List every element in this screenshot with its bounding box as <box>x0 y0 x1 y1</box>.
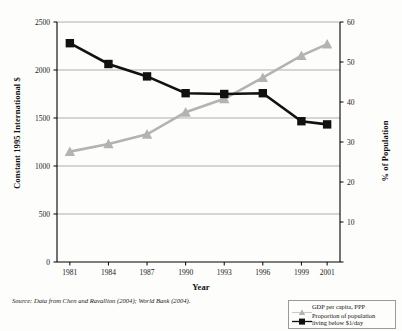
series-poverty-rate <box>66 39 332 129</box>
legend-item-poverty: Proportion of population living below $1… <box>292 312 392 326</box>
legend-item-gdp: GDP per capita, PPP <box>292 303 392 312</box>
legend-label-gdp: GDP per capita, PPP <box>312 303 365 310</box>
legend-label-poverty-line1: Proportion of population <box>312 312 375 319</box>
chart-legend: GDP per capita, PPP Proportion of popula… <box>288 300 396 329</box>
legend-label-poverty: Proportion of population living below $1… <box>312 312 375 326</box>
plot-area <box>0 0 402 331</box>
series-gdp-per-capita <box>65 39 333 156</box>
chart-container: Constant 1995 International $ % of Popul… <box>0 0 402 331</box>
source-note: Source: Data from Chen and Ravallion (20… <box>12 297 190 304</box>
legend-square-icon <box>292 312 312 321</box>
legend-label-poverty-line2: living below $1/day <box>312 319 375 326</box>
legend-triangle-icon <box>292 303 312 312</box>
